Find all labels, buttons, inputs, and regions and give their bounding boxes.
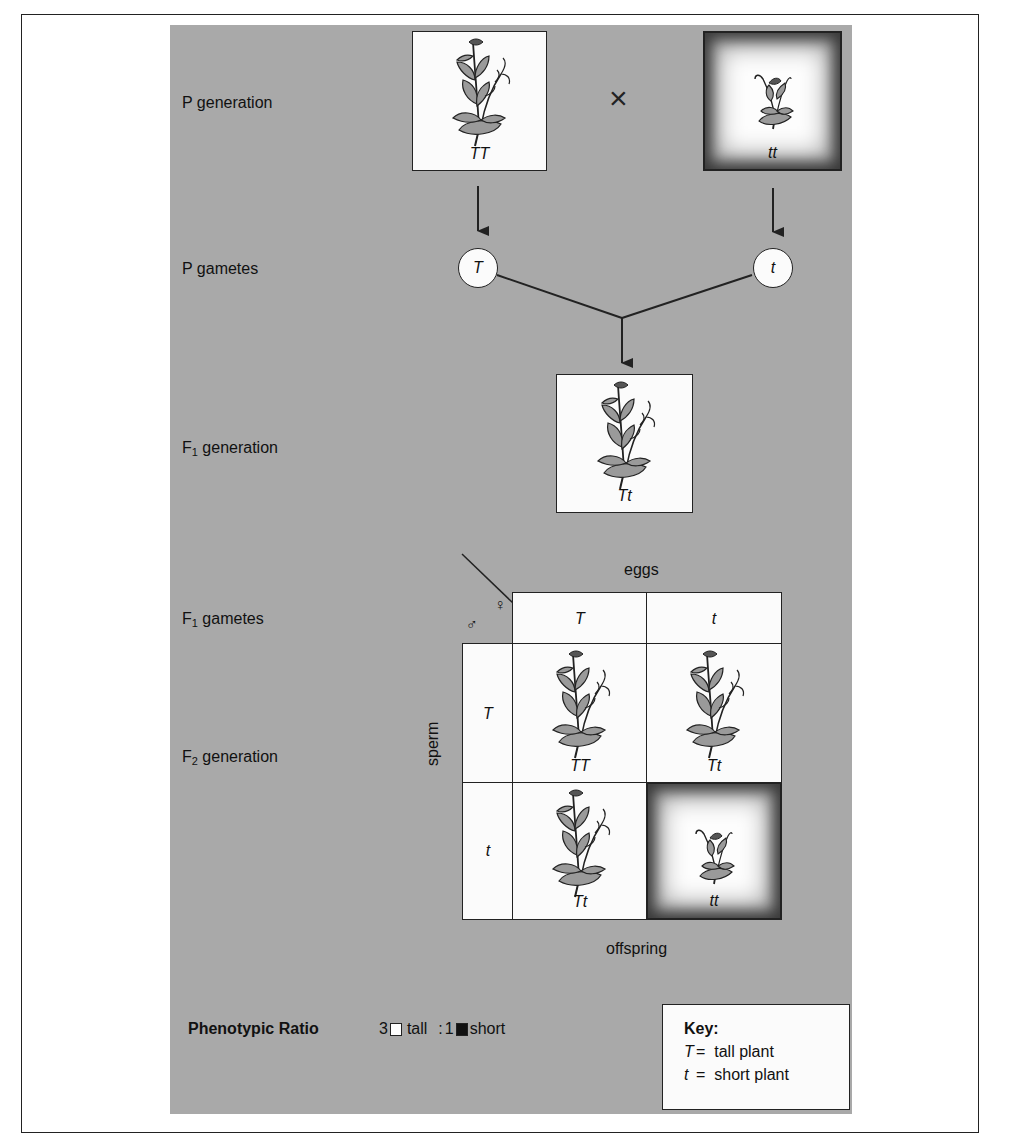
punnett-col-header: T xyxy=(512,592,648,645)
phenotypic-ratio-label: Phenotypic Ratio xyxy=(188,1020,319,1038)
tall-label: tall xyxy=(407,1020,427,1038)
tall-plant-icon xyxy=(545,646,615,760)
punnett-cell-TT: TT xyxy=(512,643,648,784)
short-swatch-icon xyxy=(456,1023,468,1036)
genotype-label: TT xyxy=(513,757,647,775)
short-label: short xyxy=(470,1020,506,1038)
phenotypic-ratio-value: 3 tall : 1 short xyxy=(379,1020,505,1038)
male-symbol-icon: ♂ xyxy=(466,616,478,634)
genotype-label: Tt xyxy=(557,487,692,505)
female-symbol-icon: ♀ xyxy=(494,596,506,614)
tall-swatch-icon xyxy=(390,1023,402,1036)
punnett-col-header: t xyxy=(646,592,782,645)
punnett-cell-tt: tt xyxy=(646,782,782,920)
key-title: Key: xyxy=(684,1017,849,1040)
tall-count: 3 xyxy=(379,1020,388,1038)
short-count: 1 xyxy=(445,1020,454,1038)
gamete-line-right xyxy=(622,275,752,318)
f1-plant-box: Tt xyxy=(556,374,693,513)
punnett-cell-Tt: Tt xyxy=(512,782,648,920)
key-entry-tall: T= tall plant xyxy=(684,1040,849,1063)
eggs-label: eggs xyxy=(624,561,659,579)
sperm-label: sperm xyxy=(424,722,442,766)
tall-plant-icon xyxy=(590,377,660,491)
offspring-label: offspring xyxy=(606,940,667,958)
genotype-label: tt xyxy=(646,892,782,910)
punnett-row-header: t xyxy=(462,782,514,920)
punnett-row-header: T xyxy=(462,643,514,784)
key-entry-short: t= short plant xyxy=(684,1063,849,1086)
genotype-label: Tt xyxy=(647,757,781,775)
gamete-circle-t: t xyxy=(753,248,793,288)
gamete-circle-T: T xyxy=(458,248,498,288)
ratio-separator: : xyxy=(438,1020,442,1038)
connector-lines xyxy=(0,0,1019,1144)
genotype-label: Tt xyxy=(513,893,647,911)
tall-plant-icon xyxy=(679,646,749,760)
short-plant-icon xyxy=(684,814,744,888)
key-box: Key: T= tall plant t= short plant xyxy=(662,1004,850,1110)
gamete-line-left xyxy=(497,275,622,318)
punnett-cell-Tt: Tt xyxy=(646,643,782,784)
tall-plant-icon xyxy=(545,785,615,899)
